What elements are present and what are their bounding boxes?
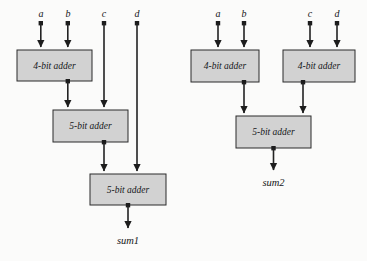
right-adder-1-label: 4-bit adder [204,61,247,71]
left-adder-2-label: 5-bit adder [69,121,112,131]
input-label-b-left: b [66,8,71,19]
left-adder-1-label: 4-bit adder [33,61,76,71]
left-circuit-group: 4-bit adder 5-bit adder 5-bit adder a b … [17,8,166,246]
input-label-b-right: b [242,8,247,19]
right-circuit-group: 4-bit adder 4-bit adder 5-bit adder a b … [191,8,355,188]
circuit-diagram-canvas: 4-bit adder 5-bit adder 5-bit adder a b … [0,0,367,261]
input-label-c-left: c [102,8,107,19]
right-adder-3-label: 5-bit adder [252,127,295,137]
output-label-sum1: sum1 [117,235,139,246]
input-label-a-right: a [216,8,221,19]
left-adder-3-label: 5-bit adder [107,185,150,195]
input-label-a-left: a [39,8,44,19]
input-label-d-right: d [335,8,341,19]
right-adder-2-label: 4-bit adder [298,61,341,71]
output-label-sum2: sum2 [262,177,285,188]
input-label-d-left: d [135,8,141,19]
input-label-c-right: c [308,8,313,19]
